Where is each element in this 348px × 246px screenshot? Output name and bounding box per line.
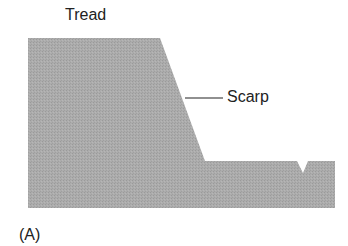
scarp-label: Scarp — [227, 88, 269, 106]
terrace-diagram — [0, 0, 348, 246]
tread-label: Tread — [65, 6, 106, 24]
panel-label: (A) — [19, 226, 40, 244]
terrain-profile — [28, 38, 335, 208]
